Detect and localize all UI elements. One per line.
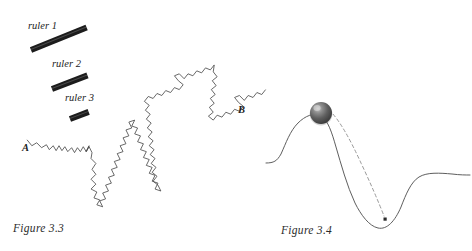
hill-terrain-profile (266, 114, 470, 228)
figure-3-4-drawing (0, 0, 472, 251)
ball-trajectory-dashed-path (329, 110, 384, 216)
ball-sphere (310, 102, 332, 124)
figure-page: ruler 1 ruler 2 ruler 3 A B Figure 3.3 F… (0, 0, 472, 251)
ball-highlight-icon (313, 105, 320, 111)
figure-3-4-caption: Figure 3.4 (281, 224, 332, 236)
target-marker (384, 218, 387, 221)
